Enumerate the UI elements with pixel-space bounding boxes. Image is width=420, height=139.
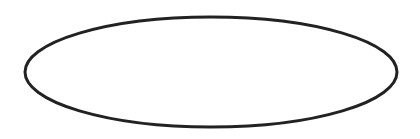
diagram-svg: [0, 0, 420, 139]
ellipse-shape: [25, 17, 397, 127]
diagram-canvas: [0, 0, 420, 139]
